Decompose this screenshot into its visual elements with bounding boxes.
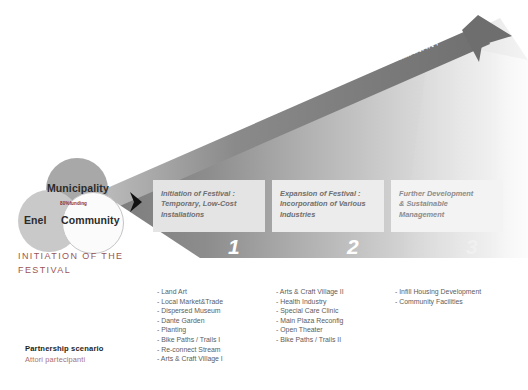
axis-end-label: PERMANANT (381, 37, 441, 68)
phase-3-item-list: - Infill Housing Development - Community… (395, 287, 481, 306)
legend: Partnership scenario Attori partecipanti (25, 344, 104, 364)
list-item: - Planting (157, 325, 223, 335)
list-item: - Open Theater (276, 325, 344, 335)
venn-label-enel: Enel (24, 214, 47, 226)
phase-1-title: Initiation of Festival : Temporary, Low-… (161, 189, 257, 220)
phase-1-title-line3: Installations (161, 210, 257, 220)
phase-2-title-line2: Incorporation of Various (280, 199, 376, 209)
list-item: - Bike Paths / Trails II (276, 335, 344, 345)
list-item: - Arts & Craft Village II (276, 287, 344, 297)
phase-2-title-line3: Industries (280, 210, 376, 220)
list-item: - Special Care Clinic (276, 306, 344, 316)
legend-subtitle: Attori partecipanti (25, 355, 104, 364)
list-item: - Main Plaza Reconfig (276, 316, 344, 326)
phase-2-item-list: - Arts & Craft Village II - Health Indus… (276, 287, 344, 345)
phase-3-title-line2: & Sustainable Management (399, 199, 495, 220)
venn-caption: Initiation of the Festival (18, 249, 178, 277)
phase-box-2: Expansion of Festival : Incorporation of… (272, 180, 384, 232)
list-item: - Dante Garden (157, 316, 223, 326)
phase-1-title-line2: Temporary, Low-Cost (161, 199, 257, 209)
list-item: - Arts & Craft Village I (157, 354, 223, 364)
diagram-canvas: TEMPORARY PERMANANT Municipality Enel Co… (0, 0, 528, 390)
venn-diagram: Municipality Enel Community 80%funding (14, 158, 144, 258)
phase-box-1: Initiation of Festival : Temporary, Low-… (153, 180, 265, 232)
venn-overlap-note: 80%funding (60, 201, 87, 206)
venn-label-municipality: Municipality (47, 182, 109, 194)
phase-2-title: Expansion of Festival : Incorporation of… (280, 189, 376, 220)
list-item: - Health Industry (276, 297, 344, 307)
list-item: - Dispersed Museum (157, 306, 223, 316)
phase-3-title-line1: Further Development (399, 189, 495, 199)
list-item: - Land Art (157, 287, 223, 297)
venn-caption-line2: Festival (18, 263, 178, 277)
phase-number-2: 2 (347, 235, 359, 259)
chevron-right-icon-1 (128, 190, 144, 214)
phase-2-title-line1: Expansion of Festival : (280, 189, 376, 199)
list-item: - Community Facilities (395, 297, 481, 307)
venn-caption-line1: Initiation of the (18, 249, 178, 263)
venn-label-community: Community (61, 214, 120, 226)
list-item: - Infill Housing Development (395, 287, 481, 297)
legend-title: Partnership scenario (25, 344, 104, 353)
list-item: - Local Market&Trade (157, 297, 223, 307)
phase-number-1: 1 (228, 235, 240, 259)
phase-3-title: Further Development & Sustainable Manage… (399, 189, 495, 220)
list-item: - Re-connect Stream (157, 345, 223, 355)
phase-box-3: Further Development & Sustainable Manage… (391, 180, 503, 232)
phase-1-item-list: - Land Art - Local Market&Trade - Disper… (157, 287, 223, 364)
list-item: - Bike Paths / Trails I (157, 335, 223, 345)
phase-number-3: 3 (466, 235, 478, 259)
phase-1-title-line1: Initiation of Festival : (161, 189, 257, 199)
